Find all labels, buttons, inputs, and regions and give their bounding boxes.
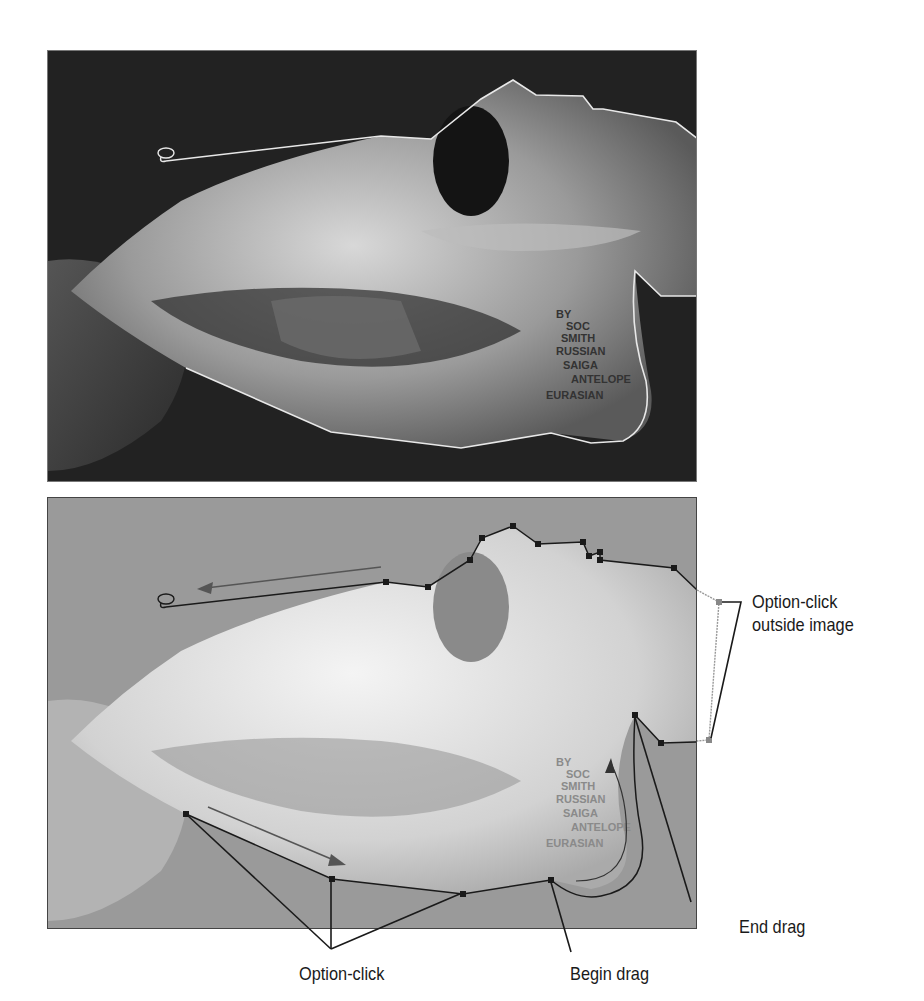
- callout-option-click-outside: Option-click outside image: [752, 590, 854, 636]
- callout-leaders: [0, 0, 924, 1001]
- callout-option-click: Option-click: [299, 962, 384, 985]
- callout-begin-drag: Begin drag: [570, 962, 649, 985]
- callout-end-drag: End drag: [739, 915, 805, 938]
- callout-line-2: outside image: [752, 613, 854, 636]
- figure: BY SOC SMITH RUSSIAN SAIGA ANTELOPE EURA…: [0, 0, 924, 1001]
- callout-line-1: Option-click: [752, 590, 854, 613]
